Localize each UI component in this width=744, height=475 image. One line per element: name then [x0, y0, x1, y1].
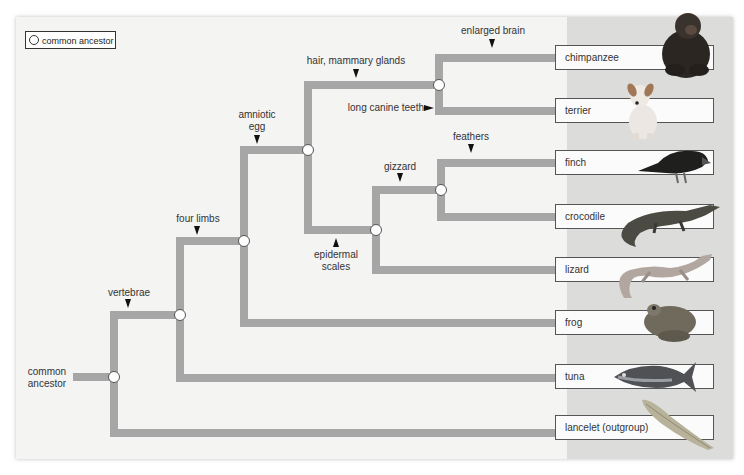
branch-terrier [439, 85, 555, 111]
marker-up-icon [333, 238, 339, 247]
node-reptiles [371, 225, 382, 236]
lancelet-image [640, 398, 720, 454]
node-amniotes [303, 145, 314, 156]
node-vertebrates [175, 310, 186, 321]
marker-down-icon [125, 299, 131, 308]
branch-frog [244, 241, 555, 323]
crocodile-image [610, 197, 722, 249]
branch-lancelet [114, 377, 555, 433]
chimpanzee-image [655, 8, 717, 80]
trait-epidermal-scales-line-2: scales [308, 261, 364, 273]
legend: common ancestor [25, 31, 116, 49]
finch-image [636, 143, 712, 187]
branch-finch [441, 163, 555, 190]
marker-down-icon [194, 226, 200, 235]
node-archosaurs [436, 185, 447, 196]
trait-long-canine-teeth: long canine teeth [338, 102, 424, 114]
trait-hair-mammary-glands: hair, mammary glands [296, 55, 416, 67]
branch-tetrapods [180, 241, 244, 315]
trait-amniotic-egg-line-1: amniotic [232, 109, 282, 121]
common-ancestor-node-icon [29, 35, 39, 45]
trait-epidermal-scales: epidermal scales [308, 249, 364, 273]
trait-gizzard: gizzard [380, 161, 420, 173]
branch-crocodile [441, 190, 555, 217]
root-label: common ancestor [24, 366, 70, 390]
frog-image [640, 298, 700, 344]
terrier-image [618, 78, 668, 142]
node-tetrapods [239, 236, 250, 247]
marker-down-icon [489, 39, 495, 48]
trait-vertebrae: vertebrae [104, 287, 154, 299]
node-mammals [434, 80, 445, 91]
marker-down-icon [254, 135, 260, 144]
root-label-line-2: ancestor [24, 378, 70, 390]
branch-archosaurs [376, 190, 441, 230]
marker-down-icon [468, 144, 474, 153]
trait-feathers: feathers [446, 131, 496, 143]
branch-reptiles [308, 150, 376, 230]
marker-right-icon [424, 105, 434, 111]
lizard-image [610, 246, 716, 302]
trait-four-limbs: four limbs [172, 213, 224, 225]
branch-amniotes [244, 150, 308, 241]
legend-label: common ancestor [42, 36, 114, 46]
trait-enlarged-brain: enlarged brain [453, 25, 533, 37]
branch-lizard [376, 230, 555, 270]
branch-chimpanzee [439, 58, 555, 85]
node-root [109, 372, 120, 383]
trait-amniotic-egg: amniotic egg [232, 109, 282, 133]
marker-down-icon [397, 173, 403, 182]
branch-vertebrates [114, 315, 180, 377]
branch-mammals [308, 85, 439, 150]
trait-epidermal-scales-line-1: epidermal [308, 249, 364, 261]
cladogram: common ancestor common ancestor vertebra… [0, 0, 744, 475]
tuna-image [612, 358, 700, 396]
root-label-line-1: common [24, 366, 70, 378]
trait-amniotic-egg-line-2: egg [232, 121, 282, 133]
marker-down-icon [353, 69, 359, 78]
